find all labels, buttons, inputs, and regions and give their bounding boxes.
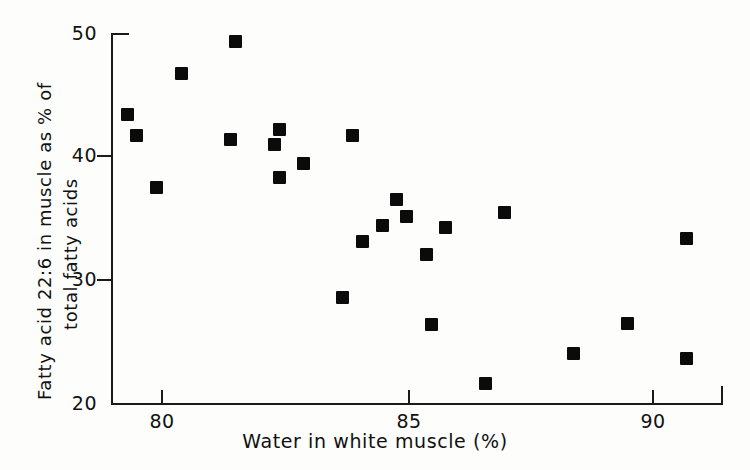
y-axis-label-line1: Fatty acid 22:6 in muscle as % of bbox=[34, 82, 55, 400]
data-point bbox=[420, 248, 433, 261]
data-point bbox=[439, 221, 452, 234]
x-axis-right-stub bbox=[721, 386, 723, 405]
y-tick-label-40: 40 bbox=[53, 144, 97, 166]
x-tick-label-90: 90 bbox=[623, 410, 683, 432]
data-point bbox=[121, 108, 134, 121]
data-point bbox=[680, 232, 693, 245]
y-tick-label-20: 20 bbox=[53, 392, 97, 414]
x-tick-85 bbox=[408, 390, 410, 404]
data-point bbox=[680, 352, 693, 365]
data-point bbox=[297, 157, 310, 170]
data-point bbox=[425, 318, 438, 331]
y-tick-40 bbox=[97, 155, 112, 157]
scatter-plot-figure: 50 40 30 20 80 85 90 Water in white musc… bbox=[0, 0, 750, 470]
data-point bbox=[175, 67, 188, 80]
data-point bbox=[273, 123, 286, 136]
y-axis-line bbox=[111, 33, 113, 405]
data-point bbox=[150, 181, 163, 194]
data-point bbox=[567, 347, 580, 360]
data-point bbox=[376, 219, 389, 232]
x-axis-line bbox=[111, 403, 723, 405]
data-point bbox=[273, 171, 286, 184]
x-tick-80 bbox=[161, 390, 163, 404]
data-point bbox=[268, 138, 281, 151]
x-axis-label: Water in white muscle (%) bbox=[0, 430, 750, 452]
data-point bbox=[229, 35, 242, 48]
data-point bbox=[479, 377, 492, 390]
data-point bbox=[130, 129, 143, 142]
data-point bbox=[336, 291, 349, 304]
data-point bbox=[224, 133, 237, 146]
data-point bbox=[400, 210, 413, 223]
x-tick-label-80: 80 bbox=[132, 410, 192, 432]
data-point bbox=[356, 235, 369, 248]
data-point bbox=[621, 317, 634, 330]
x-tick-90 bbox=[652, 390, 654, 404]
data-point bbox=[390, 193, 403, 206]
y-axis-label-line2: total fatty acids bbox=[60, 178, 81, 330]
y-axis-top-stub bbox=[111, 33, 129, 35]
data-point bbox=[346, 129, 359, 142]
y-tick-30 bbox=[97, 279, 112, 281]
x-tick-label-85: 85 bbox=[379, 410, 439, 432]
y-tick-label-50: 50 bbox=[53, 22, 97, 44]
data-point bbox=[498, 206, 511, 219]
